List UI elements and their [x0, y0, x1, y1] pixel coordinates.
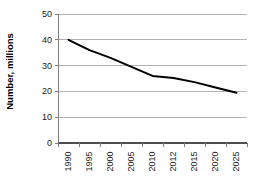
- x-tick-label: 2015: [189, 144, 201, 184]
- axis-tick-marks: [55, 14, 247, 147]
- x-axis-tick-labels: 199019952000200520102012201520202025: [0, 144, 257, 188]
- x-tick-label: 2000: [105, 144, 117, 184]
- x-tick-label: 2012: [168, 144, 180, 184]
- x-tick-label-text: 2012: [169, 151, 178, 171]
- x-tick-label: 2025: [231, 144, 243, 184]
- x-tick-label-text: 2025: [232, 151, 241, 171]
- x-tick-label: 1995: [84, 144, 96, 184]
- x-tick-label-text: 2015: [190, 151, 199, 171]
- x-tick-label-text: 2010: [148, 151, 157, 171]
- x-tick-label-text: 2005: [127, 151, 136, 171]
- data-series: [69, 40, 237, 93]
- gridlines: [58, 14, 247, 117]
- x-tick-label-text: 2000: [106, 151, 115, 171]
- axes: [58, 14, 247, 143]
- x-tick-label: 1990: [63, 144, 75, 184]
- x-tick-label: 2010: [147, 144, 159, 184]
- x-tick-label-text: 1995: [85, 151, 94, 171]
- x-tick-label-text: 1990: [64, 151, 73, 171]
- series-line: [69, 40, 237, 93]
- x-tick-label: 2020: [210, 144, 222, 184]
- x-tick-label: 2005: [126, 144, 138, 184]
- x-tick-label-text: 2020: [211, 151, 220, 171]
- line-chart: Number, millions 01020304050 19901995200…: [0, 0, 257, 188]
